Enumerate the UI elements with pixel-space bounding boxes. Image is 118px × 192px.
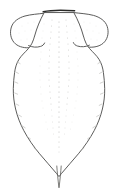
specimen-illustration: [0, 0, 118, 192]
figure-canvas: [0, 0, 118, 192]
anterior-margin-bar: [43, 10, 74, 12]
